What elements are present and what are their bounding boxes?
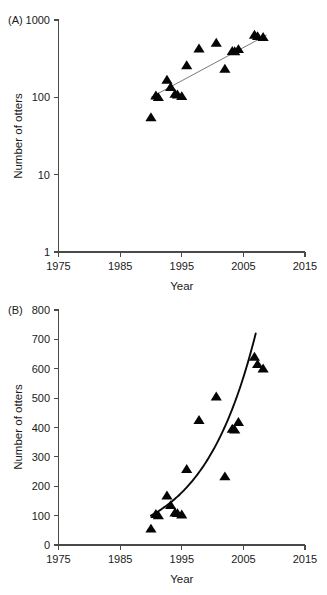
panel-b-xtick-2015: 2015 xyxy=(293,553,317,565)
panel-a-xtick-2015: 2015 xyxy=(293,260,317,272)
panel-b-xtick-1975: 1975 xyxy=(46,553,70,565)
panel-a-ytick-1000: 1000 xyxy=(26,14,50,26)
panel-a-x-axis-title: Year xyxy=(170,280,193,292)
panel-b-ytick-label: 100 xyxy=(32,510,50,522)
data-point-marker xyxy=(211,392,222,401)
panel-b-ytick-label: 600 xyxy=(32,363,50,375)
panel-b-linear-scale: 0100200300400500600700800 1975 1985 1995… xyxy=(0,296,327,595)
panel-a-xtick-1975: 1975 xyxy=(46,260,70,272)
panel-b-y-ticks xyxy=(54,310,59,545)
panel-b-ytick-label: 800 xyxy=(32,304,50,316)
panel-b-xtick-1995: 1995 xyxy=(170,553,194,565)
panel-a-ytick-10: 10 xyxy=(38,169,50,181)
panel-b-xtick-2005: 2005 xyxy=(231,553,255,565)
panel-a-x-ticks xyxy=(59,252,306,257)
data-point-marker xyxy=(161,491,172,500)
data-point-marker xyxy=(161,75,172,84)
data-point-marker xyxy=(181,464,192,473)
data-point-marker xyxy=(219,64,230,73)
panel-b-ytick-label: 200 xyxy=(32,480,50,492)
panel-b-y-tick-labels: 0100200300400500600700800 xyxy=(32,304,50,551)
panel-a-xtick-1995: 1995 xyxy=(170,260,194,272)
panel-a-plot: 1000 100 10 1 1975 1985 1995 2005 2015 Y… xyxy=(0,0,327,296)
panel-b-data-points xyxy=(145,352,268,533)
data-point-marker xyxy=(193,415,204,424)
data-point-marker xyxy=(145,112,156,121)
panel-b-x-ticks xyxy=(59,545,306,550)
otter-population-figure: 1000 100 10 1 1975 1985 1995 2005 2015 Y… xyxy=(0,0,327,595)
panel-b-ytick-label: 500 xyxy=(32,392,50,404)
panel-b-ytick-label: 400 xyxy=(32,422,50,434)
panel-a-xtick-2005: 2005 xyxy=(231,260,255,272)
data-point-marker xyxy=(211,38,222,47)
panel-b-plot: 0100200300400500600700800 1975 1985 1995… xyxy=(0,296,327,595)
data-point-marker xyxy=(219,471,230,480)
panel-a-label: (A) xyxy=(8,14,23,26)
panel-a-ytick-1: 1 xyxy=(44,246,50,258)
data-point-marker xyxy=(181,60,192,69)
panel-a-y-axis-title: Number of otters xyxy=(12,93,24,179)
panel-b-ytick-label: 0 xyxy=(44,539,50,551)
data-point-marker xyxy=(193,44,204,53)
panel-b-ytick-label: 300 xyxy=(32,451,50,463)
panel-b-xtick-1985: 1985 xyxy=(108,553,132,565)
panel-a-y-ticks xyxy=(54,20,59,252)
panel-b-y-axis-title: Number of otters xyxy=(12,384,24,470)
panel-b-ytick-label: 700 xyxy=(32,333,50,345)
panel-a-ytick-100: 100 xyxy=(32,91,50,103)
panel-a-xtick-1985: 1985 xyxy=(108,260,132,272)
panel-a-log-scale: 1000 100 10 1 1975 1985 1995 2005 2015 Y… xyxy=(0,0,327,296)
panel-b-label: (B) xyxy=(8,304,23,316)
data-point-marker xyxy=(233,417,244,426)
panel-b-x-axis-title: Year xyxy=(170,573,193,585)
data-point-marker xyxy=(145,524,156,533)
